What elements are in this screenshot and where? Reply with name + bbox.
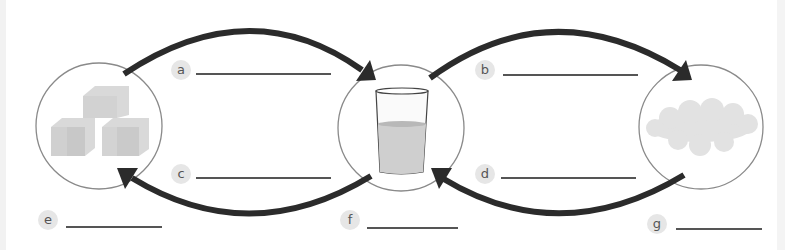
arrowhead-d	[431, 168, 452, 189]
label-badge-g: g	[647, 214, 667, 234]
states-of-matter-diagram	[0, 0, 785, 250]
ice-cubes-icon	[51, 86, 149, 156]
answer-line-e[interactable]	[66, 226, 162, 228]
glass-of-water-icon	[376, 88, 428, 174]
label-badge-b: b	[475, 60, 495, 80]
label-badge-d: d	[475, 164, 495, 184]
label-badge-e: e	[38, 210, 58, 230]
steam-cloud-icon	[646, 98, 758, 156]
arrow-a	[124, 31, 362, 74]
arrow-b	[430, 32, 680, 78]
label-badge-c: c	[171, 164, 191, 184]
arrow-c	[132, 176, 371, 214]
answer-line-a[interactable]	[196, 73, 331, 75]
answer-line-b[interactable]	[503, 74, 638, 76]
answer-line-d[interactable]	[501, 177, 636, 179]
label-badge-a: a	[171, 60, 191, 80]
label-badge-f: f	[340, 210, 360, 230]
answer-line-g[interactable]	[676, 228, 762, 230]
answer-line-f[interactable]	[367, 227, 458, 229]
answer-line-c[interactable]	[196, 177, 331, 179]
